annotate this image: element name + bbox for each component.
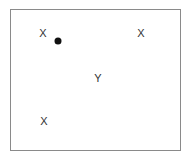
filled-dot-icon xyxy=(55,38,62,45)
marker-y-center: Y xyxy=(94,73,101,84)
marker-x-top-left: X xyxy=(39,28,46,39)
marker-x-bottom-left: X xyxy=(40,116,47,127)
marker-x-top-right: X xyxy=(137,28,144,39)
